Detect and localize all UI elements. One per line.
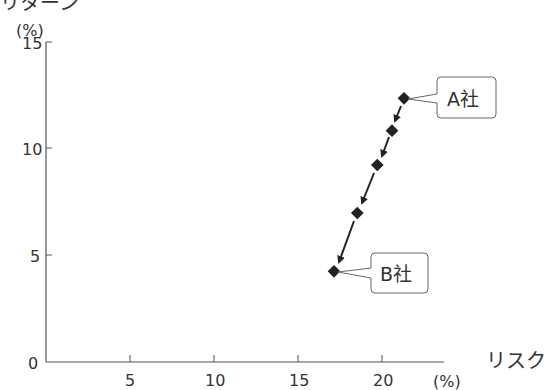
callout-a-label: A社 (447, 88, 479, 110)
callout-b-label: B社 (380, 263, 412, 285)
point-3 (371, 159, 384, 172)
callout-a: A社 (408, 77, 496, 118)
callout-b: B社 (338, 253, 428, 293)
point-4 (351, 207, 364, 220)
risk-return-chart: リターン (%) リスク (%) 15 10 5 0 5 10 15 20 (0, 0, 549, 390)
x-tick-5: 5 (125, 371, 135, 390)
axes (46, 42, 444, 362)
y-tick-15: 15 (22, 34, 42, 53)
x-tick-20: 20 (373, 371, 393, 390)
x-tick-10: 10 (205, 371, 225, 390)
y-tick-10: 10 (22, 140, 42, 159)
x-axis-title: リスク (486, 349, 546, 373)
x-axis-unit: (%) (433, 372, 461, 390)
y-tick-5: 5 (30, 247, 40, 266)
y-axis-title: リターン (0, 0, 79, 15)
origin-label: 0 (28, 354, 38, 373)
x-tick-15: 15 (289, 371, 309, 390)
point-2 (386, 124, 399, 137)
point-a (398, 92, 411, 105)
point-b (328, 265, 341, 278)
